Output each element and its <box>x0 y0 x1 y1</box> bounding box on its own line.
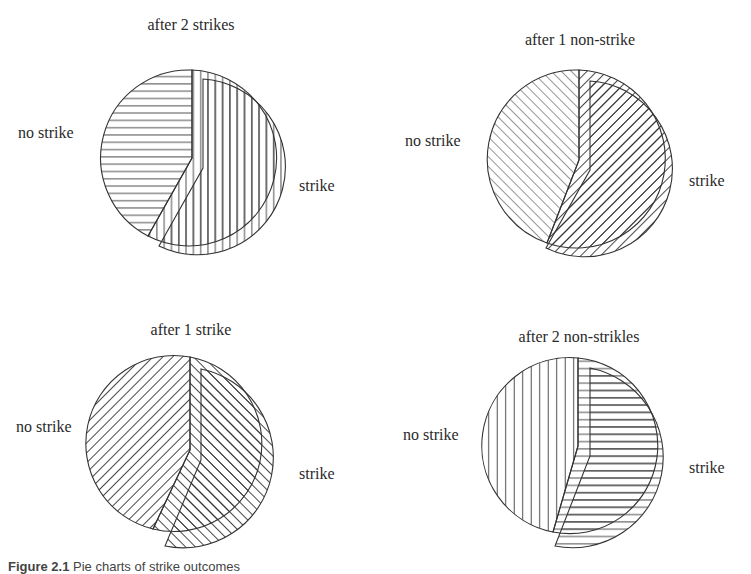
pie-after-1-non-strike: after 1 non-strike no strike strike <box>405 31 725 257</box>
label-strike: strike <box>299 177 335 194</box>
chart-title: after 2 non-strikles <box>519 328 640 345</box>
pie-after-2-strikes: after 2 strikes no strike strike <box>18 16 335 255</box>
chart-title: after 1 non-strike <box>525 31 635 48</box>
label-no-strike: no strike <box>405 132 461 149</box>
label-no-strike: no strike <box>18 124 74 141</box>
figure-number: Figure 2.1 <box>8 559 69 574</box>
figure-caption: Figure 2.1 Pie charts of strike outcomes <box>8 559 240 574</box>
pie-after-1-strike: after 1 strike no strike strike <box>16 321 335 548</box>
label-no-strike: no strike <box>16 418 72 435</box>
chart-title: after 1 strike <box>151 321 232 338</box>
label-strike: strike <box>299 465 335 482</box>
chart-title: after 2 strikes <box>147 16 234 33</box>
label-strike: strike <box>689 459 725 476</box>
label-no-strike: no strike <box>403 426 459 443</box>
figure-caption-text: Pie charts of strike outcomes <box>73 559 240 574</box>
label-strike: strike <box>689 172 725 189</box>
pie-after-2-non-strikles: after 2 non-strikles no strike strike <box>403 328 725 548</box>
